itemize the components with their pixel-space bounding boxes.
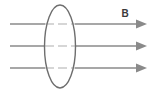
figure-svg: B — [0, 0, 158, 93]
magnetic-field-label: B — [121, 8, 128, 19]
field-line-bottom — [10, 64, 147, 73]
field-line-top-arrowhead-icon — [136, 20, 147, 29]
field-line-middle — [10, 42, 147, 51]
field-line-bottom-arrowhead-icon — [136, 64, 147, 73]
figure-container: B — [0, 0, 158, 93]
field-line-top — [10, 20, 147, 29]
field-line-middle-arrowhead-icon — [136, 42, 147, 51]
